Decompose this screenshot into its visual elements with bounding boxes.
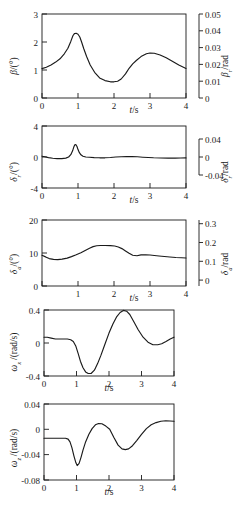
panel-delta-r-curve bbox=[42, 145, 186, 159]
panel-omega-z: ωz /(rad/s) 0.04 0 -0.04 -0.08 bbox=[0, 398, 236, 514]
panel-beta-ylabel-left: β/(°) bbox=[9, 57, 20, 76]
panel-omega-x-frame bbox=[44, 310, 174, 376]
svg-text:δa/rad: δa/rad bbox=[220, 253, 233, 276]
svg-text:0.04: 0.04 bbox=[24, 400, 40, 410]
svg-text:βr/rad: βr/rad bbox=[220, 55, 233, 78]
svg-text:20: 20 bbox=[29, 216, 39, 226]
panel-delta-r-right-axis bbox=[199, 139, 203, 175]
svg-text:0.1: 0.1 bbox=[205, 257, 216, 267]
panel-delta-r-ylabel-left: δr/(°) bbox=[9, 162, 22, 182]
panel-beta-frame bbox=[42, 14, 186, 98]
svg-text:0.03: 0.03 bbox=[205, 43, 221, 53]
panel-beta-right-ticklabels: 0.05 0.04 0.03 0.02 0.01 0 bbox=[205, 10, 221, 104]
panel-omega-x-curve bbox=[44, 310, 174, 373]
panel-omega-z-curve bbox=[44, 421, 174, 466]
panel-beta-curve bbox=[42, 33, 186, 82]
panel-delta-a-x-ticks bbox=[42, 281, 186, 286]
svg-text:0: 0 bbox=[205, 153, 210, 163]
panel-omega-z-left-ticks bbox=[44, 404, 49, 480]
panel-omega-z-xlabel: t/s bbox=[0, 481, 236, 499]
svg-text:4: 4 bbox=[34, 122, 39, 132]
panel-beta-x-ticks bbox=[42, 93, 186, 98]
panel-omega-z-x-ticks bbox=[44, 475, 174, 480]
svg-text:0: 0 bbox=[205, 276, 210, 286]
panel-omega-x-xlabel: t/s bbox=[0, 377, 236, 395]
panel-delta-a-frame bbox=[42, 220, 186, 286]
panel-beta-ylabel-right: βr/rad bbox=[220, 55, 233, 78]
panel-omega-x-left-ticks bbox=[44, 310, 49, 376]
panel-delta-a-right-ticklabels: 0.3 0.2 0.1 0 bbox=[205, 219, 217, 285]
panel-delta-a-ylabel-left: δa/(°) bbox=[9, 254, 22, 274]
panel-delta-r-left-ticklabels: 4 0 -4 bbox=[31, 122, 39, 194]
panel-delta-r-right-ticklabels: 0.04 0 -0.04 bbox=[205, 135, 224, 181]
panel-beta-right-axis bbox=[199, 14, 203, 98]
svg-text:δr/(°): δr/(°) bbox=[9, 162, 22, 182]
svg-text:10: 10 bbox=[29, 249, 39, 259]
panel-delta-r: δr/(°) δr/rad 4 0 -4 bbox=[0, 116, 236, 216]
panel-beta-xlabel: t/s bbox=[0, 99, 236, 117]
svg-text:0.04: 0.04 bbox=[205, 26, 221, 36]
svg-text:β/(°): β/(°) bbox=[9, 57, 20, 76]
figure-multi-panel-plot: β/(°) βr/rad 3 2 1 0 bbox=[0, 0, 236, 514]
panel-omega-x: ωx /(rad/s) 0.4 0 -0.4 0 bbox=[0, 302, 236, 404]
svg-text:3: 3 bbox=[34, 10, 39, 20]
panel-omega-x-ylabel-left: ωx /(rad/s) bbox=[9, 333, 22, 372]
panel-delta-a: δa/(°) δa/rad 20 10 0 bbox=[0, 212, 236, 312]
svg-text:δa/(°): δa/(°) bbox=[9, 254, 22, 274]
panel-delta-a-right-axis bbox=[199, 220, 203, 286]
panel-omega-z-frame bbox=[44, 404, 174, 480]
svg-text:0.4: 0.4 bbox=[29, 306, 41, 316]
panel-omega-x-left-ticklabels: 0.4 0 -0.4 bbox=[26, 306, 41, 382]
svg-text:0.02: 0.02 bbox=[205, 60, 221, 70]
panel-delta-a-left-ticks bbox=[42, 220, 47, 286]
svg-text:ωx /(rad/s): ωx /(rad/s) bbox=[9, 333, 22, 372]
svg-text:0.05: 0.05 bbox=[205, 10, 221, 20]
panel-beta-svg: β/(°) βr/rad 3 2 1 0 bbox=[0, 0, 236, 112]
svg-text:0.04: 0.04 bbox=[205, 135, 221, 145]
svg-text:2: 2 bbox=[34, 38, 39, 48]
panel-omega-x-x-ticks bbox=[44, 371, 174, 376]
panel-delta-a-ylabel-right: δa/rad bbox=[220, 253, 233, 276]
svg-text:0.01: 0.01 bbox=[205, 77, 221, 87]
svg-text:ωz /(rad/s): ωz /(rad/s) bbox=[9, 429, 22, 468]
svg-text:0: 0 bbox=[36, 425, 41, 435]
panel-beta-left-ticklabels: 3 2 1 0 bbox=[34, 10, 39, 104]
svg-text:-0.04: -0.04 bbox=[205, 171, 224, 181]
svg-text:-0.04: -0.04 bbox=[21, 450, 40, 460]
panel-delta-r-xlabel: t/s bbox=[0, 189, 236, 207]
svg-text:1: 1 bbox=[34, 66, 39, 76]
panel-omega-z-left-ticklabels: 0.04 0 -0.04 -0.08 bbox=[21, 400, 40, 486]
svg-text:0: 0 bbox=[34, 153, 39, 163]
svg-text:0.3: 0.3 bbox=[205, 219, 217, 229]
panel-beta-left-ticks bbox=[42, 14, 47, 98]
panel-delta-a-curve bbox=[42, 246, 186, 260]
panel-delta-a-left-ticklabels: 20 10 0 bbox=[29, 216, 39, 292]
panel-beta: β/(°) βr/rad 3 2 1 0 bbox=[0, 0, 236, 112]
panel-omega-z-ylabel-left: ωz /(rad/s) bbox=[9, 429, 22, 468]
panel-delta-r-x-ticks bbox=[42, 183, 186, 188]
svg-text:0.2: 0.2 bbox=[205, 238, 216, 248]
svg-text:0: 0 bbox=[36, 339, 41, 349]
